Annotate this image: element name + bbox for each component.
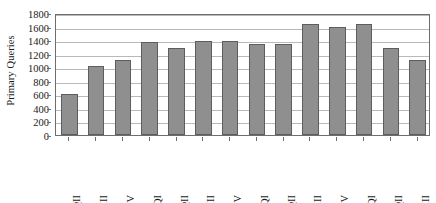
- y-axis-tick-mark: [47, 28, 51, 29]
- x-axis-tick-label: 2006QIII: [313, 195, 323, 203]
- x-axis-tick-label: 2005QII: [180, 195, 190, 203]
- x-axis-tick-label: 2004QII: [72, 195, 82, 203]
- x-axis-tick-label: 2006QII: [287, 195, 297, 203]
- x-axis-tick-mark: [283, 137, 284, 141]
- x-axis-tick-labels: 2004QII2004QIII2004QIV2005QI2005QII2005Q…: [55, 137, 430, 203]
- y-axis-tick-mark: [47, 136, 51, 137]
- bar: [409, 60, 426, 135]
- y-axis-tick-label: 1200: [28, 49, 49, 60]
- bar: [141, 42, 158, 135]
- x-axis-tick-mark: [363, 137, 364, 141]
- bar: [195, 41, 212, 135]
- x-axis-tick-mark: [390, 137, 391, 141]
- bar: [275, 44, 292, 136]
- bars-layer: [56, 15, 429, 135]
- bar: [61, 94, 78, 135]
- x-axis-tick-label: 2004QIII: [99, 195, 109, 203]
- x-axis-tick-mark: [336, 137, 337, 141]
- x-axis-tick-mark: [229, 137, 230, 141]
- y-axis-tick-mark: [47, 122, 51, 123]
- bar: [356, 24, 373, 135]
- x-axis-tick-mark: [202, 137, 203, 141]
- bar-chart: Primary Queries 020040060080010001200140…: [0, 0, 436, 203]
- x-axis-tick-label: 2005QIV: [233, 195, 243, 203]
- y-axis-tick-label: 1400: [28, 36, 49, 47]
- x-axis-tick-label: 2007QI: [367, 195, 377, 203]
- bar: [383, 48, 400, 135]
- x-axis-tick-label: 2005QI: [153, 195, 163, 203]
- bar: [249, 44, 266, 136]
- x-axis-tick-label: 2007QIII: [421, 195, 431, 203]
- y-axis-title-label: Primary Queries: [5, 35, 16, 106]
- y-axis-tick-mark: [47, 55, 51, 56]
- y-axis-tick-mark: [47, 82, 51, 83]
- y-axis-tick-label: 1000: [28, 63, 49, 74]
- x-axis-tick-mark: [68, 137, 69, 141]
- y-axis-tick-label: 1800: [28, 9, 49, 20]
- x-axis-tick-mark: [95, 137, 96, 141]
- bar: [168, 48, 185, 135]
- y-axis-tick-label: 1600: [28, 22, 49, 33]
- y-axis-tick-mark: [47, 41, 51, 42]
- x-axis-tick-mark: [417, 137, 418, 141]
- x-axis-tick-mark: [122, 137, 123, 141]
- x-axis-tick-mark: [309, 137, 310, 141]
- x-axis-tick-label: 2005QIII: [206, 195, 216, 203]
- plot-area: [55, 14, 430, 136]
- bar: [222, 41, 239, 135]
- y-axis-tick-mark: [47, 95, 51, 96]
- y-axis-tick-mark: [47, 68, 51, 69]
- y-axis-tick-labels: 020040060080010001200140016001800: [18, 8, 51, 142]
- x-axis-tick-mark: [176, 137, 177, 141]
- y-axis-tick-mark: [47, 109, 51, 110]
- x-axis-tick-label: 2006QIV: [340, 195, 350, 203]
- x-axis-tick-mark: [149, 137, 150, 141]
- x-axis-tick-label: 2004QIV: [126, 195, 136, 203]
- bar: [302, 24, 319, 135]
- x-axis-tick-mark: [256, 137, 257, 141]
- x-axis-tick-label: 2006QI: [260, 195, 270, 203]
- bar: [115, 60, 132, 135]
- x-axis-tick-label: 2007QII: [394, 195, 404, 203]
- bar: [329, 27, 346, 135]
- y-axis-title: Primary Queries: [0, 0, 20, 140]
- bar: [88, 66, 105, 135]
- y-axis-tick-mark: [47, 14, 51, 15]
